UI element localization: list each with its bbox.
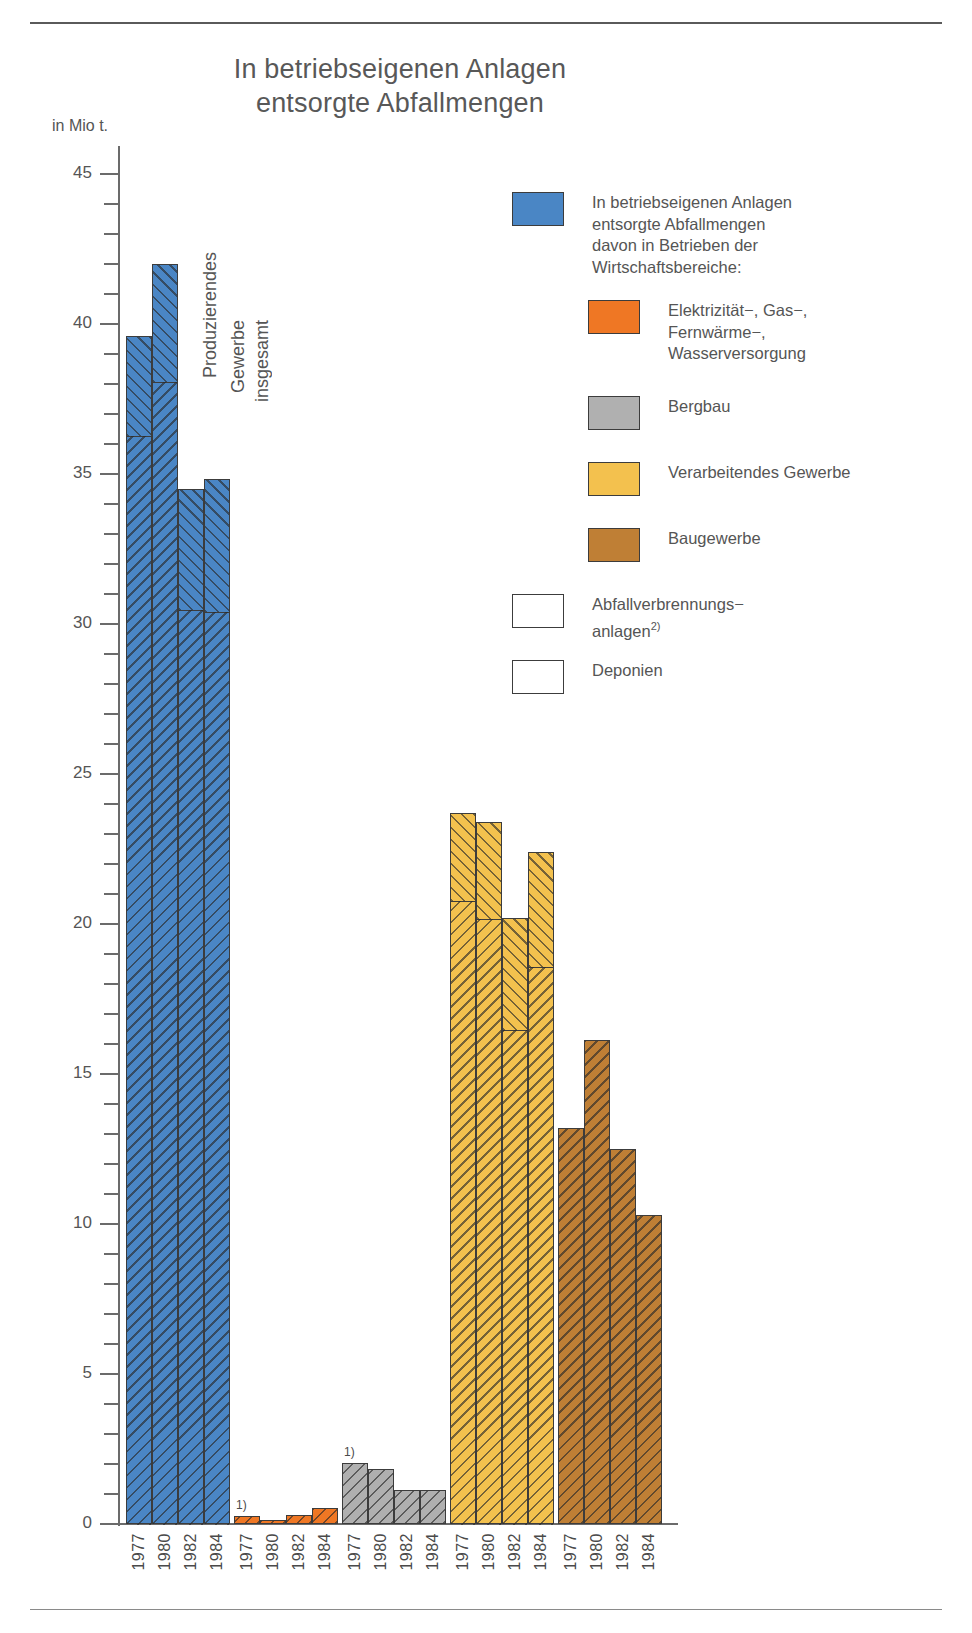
- group-annotation-line-3: insgesamt: [252, 320, 273, 402]
- x-axis-year-label: 1984: [208, 1533, 226, 1571]
- group-annotation-line-1: Produzierendes: [200, 252, 221, 378]
- legend-item-mining[interactable]: Bergbau: [588, 396, 730, 430]
- y-tick-minor: [104, 293, 118, 295]
- x-axis-year-label: 1982: [182, 1533, 200, 1571]
- x-axis-year-label: 1984: [316, 1533, 334, 1571]
- y-tick-minor: [104, 983, 118, 985]
- legend-item-incineration[interactable]: Abfallverbrennungs−anlagen2): [512, 594, 744, 642]
- bar: [260, 1520, 286, 1525]
- bar: [204, 479, 230, 1525]
- bar-segment-landfill: [559, 1129, 583, 1523]
- bar: [558, 1128, 584, 1524]
- legend-item-energy[interactable]: Elektrizität−, Gas−,Fernwärme−,Wasserver…: [588, 300, 807, 365]
- y-tick-minor: [104, 1133, 118, 1135]
- legend-label-total: In betriebseigenen Anlagenentsorgte Abfa…: [592, 192, 792, 278]
- bar-segment-landfill: [261, 1521, 285, 1524]
- legend-footnote-mark: 2): [651, 620, 661, 632]
- x-axis-year-label: 1980: [156, 1533, 174, 1571]
- legend-swatch-energy: [588, 300, 640, 334]
- legend-label-line: Wirtschaftsbereiche:: [592, 257, 792, 279]
- bar-segment-landfill: [235, 1517, 259, 1523]
- bar-segment-incineration: [529, 853, 553, 967]
- y-tick-minor: [104, 443, 118, 445]
- legend-label-line: Deponien: [592, 660, 663, 682]
- bar: [450, 813, 476, 1524]
- y-axis-unit-label: in Mio t.: [52, 117, 108, 135]
- bar-segment-landfill: [451, 901, 475, 1525]
- chart-title: In betriebseigenen Anlagen entsorgte Abf…: [150, 52, 650, 120]
- bar-segment-landfill: [127, 436, 151, 1525]
- x-axis-year-label: 1980: [480, 1533, 498, 1571]
- bar-segment-landfill: [179, 610, 203, 1525]
- x-axis-year-label: 1980: [588, 1533, 606, 1571]
- y-tick-label: 15: [46, 1063, 92, 1083]
- x-axis-year-label: 1980: [264, 1533, 282, 1571]
- x-axis-year-label: 1982: [614, 1533, 632, 1571]
- bar: [312, 1508, 338, 1525]
- bar-segment-landfill: [205, 612, 229, 1526]
- bar-segment-incineration: [451, 814, 475, 901]
- y-tick-minor: [104, 1103, 118, 1105]
- bar: [502, 918, 528, 1524]
- legend-swatch-manufacturing: [588, 462, 640, 496]
- y-tick-label: 40: [46, 313, 92, 333]
- y-tick-minor: [104, 1493, 118, 1495]
- bar-segment-landfill: [477, 919, 501, 1525]
- bar: [126, 336, 152, 1524]
- y-axis-line: [118, 146, 120, 1526]
- y-tick-minor: [104, 1043, 118, 1045]
- legend-label-line: anlagen2): [592, 616, 744, 642]
- legend-label-landfill: Deponien: [592, 660, 663, 682]
- y-tick-minor: [104, 1433, 118, 1435]
- x-axis-year-label: 1984: [532, 1533, 550, 1571]
- y-tick-minor: [104, 203, 118, 205]
- group-footnote-mark: 1): [236, 1498, 247, 1512]
- y-tick-major: [100, 1223, 118, 1225]
- x-axis-year-label: 1980: [372, 1533, 390, 1571]
- y-tick-minor: [104, 1013, 118, 1015]
- x-axis-year-label: 1982: [290, 1533, 308, 1571]
- y-tick-minor: [104, 1343, 118, 1345]
- y-tick-major: [100, 1523, 118, 1525]
- legend-item-manufacturing[interactable]: Verarbeitendes Gewerbe: [588, 462, 851, 496]
- bar-segment-incineration: [127, 337, 151, 436]
- group-footnote-mark: 1): [344, 1445, 355, 1459]
- y-tick-minor: [104, 713, 118, 715]
- bar: [610, 1149, 636, 1524]
- top-rule: [30, 22, 942, 24]
- y-tick-minor: [104, 1193, 118, 1195]
- bar: [420, 1490, 446, 1525]
- y-tick-minor: [104, 263, 118, 265]
- bar: [234, 1516, 260, 1524]
- legend-item-construction[interactable]: Baugewerbe: [588, 528, 761, 562]
- x-axis-year-label: 1977: [346, 1533, 364, 1571]
- bar-segment-landfill: [637, 1216, 661, 1523]
- legend-label-line: Verarbeitendes Gewerbe: [668, 462, 851, 484]
- y-tick-minor: [104, 1463, 118, 1465]
- y-tick-minor: [104, 233, 118, 235]
- legend-label-line: davon in Betrieben der: [592, 235, 792, 257]
- y-tick-major: [100, 1073, 118, 1075]
- x-axis-year-label: 1977: [238, 1533, 256, 1571]
- x-axis-year-label: 1984: [640, 1533, 658, 1571]
- y-tick-label: 25: [46, 763, 92, 783]
- y-tick-label: 35: [46, 463, 92, 483]
- legend-swatch-total: [512, 192, 564, 226]
- legend-label-line: entsorgte Abfallmengen: [592, 214, 792, 236]
- y-tick-minor: [104, 1313, 118, 1315]
- legend-item-total[interactable]: In betriebseigenen Anlagenentsorgte Abfa…: [512, 192, 792, 278]
- bar-segment-incineration: [477, 823, 501, 919]
- legend-item-landfill[interactable]: Deponien: [512, 660, 663, 694]
- bar-segment-landfill: [313, 1509, 337, 1524]
- legend-label-line: Bergbau: [668, 396, 730, 418]
- y-tick-major: [100, 623, 118, 625]
- legend-label-line: Fernwärme−,: [668, 322, 807, 344]
- y-tick-minor: [104, 413, 118, 415]
- y-tick-label: 30: [46, 613, 92, 633]
- legend-swatch-landfill: [512, 660, 564, 694]
- group-annotation-line-2: Gewerbe: [228, 320, 249, 393]
- legend-swatch-incineration: [512, 594, 564, 628]
- bar-segment-landfill: [529, 967, 553, 1525]
- x-axis-year-label: 1977: [130, 1533, 148, 1571]
- bar: [152, 264, 178, 1524]
